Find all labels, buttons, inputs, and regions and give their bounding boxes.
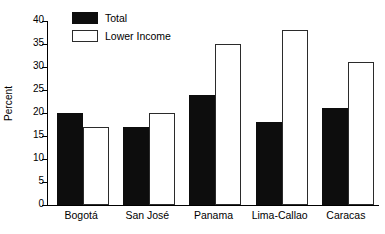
bar-group	[313, 21, 379, 205]
bar-group	[114, 21, 180, 205]
x-axis-label: Lima-Callao	[247, 209, 313, 221]
bar-total	[57, 113, 83, 205]
x-axis-label: Caracas	[313, 209, 379, 221]
x-axis-label: Panama	[180, 209, 246, 221]
bar-lower-income	[83, 127, 109, 205]
bar-chart-figure: Percent 0510152025303540 BogotáSan JoséP…	[0, 0, 385, 234]
y-tick-label: 35	[33, 37, 44, 48]
bar-group	[247, 21, 313, 205]
x-axis-label: Bogotá	[48, 209, 114, 221]
legend-item: Lower Income	[72, 28, 202, 43]
bar-lower-income	[149, 113, 175, 205]
y-axis-title-text: Percent	[4, 85, 15, 120]
filled-black-swatch	[72, 12, 98, 24]
y-tick-label: 25	[33, 83, 44, 94]
bar-lower-income	[282, 30, 308, 205]
y-tick-label: 10	[33, 152, 44, 163]
bar-total	[123, 127, 149, 205]
x-axis-label: San José	[114, 209, 180, 221]
y-tick-label: 0	[38, 198, 44, 209]
y-tick-label: 40	[33, 14, 44, 25]
bar-total	[256, 122, 282, 205]
y-axis-title: Percent	[0, 0, 18, 206]
legend-label: Lower Income	[105, 30, 171, 42]
bar-group	[48, 21, 114, 205]
y-tick-label: 20	[33, 106, 44, 117]
x-axis-labels: BogotáSan JoséPanamaLima-CallaoCaracas	[48, 209, 379, 229]
bar-group	[180, 21, 246, 205]
legend-item: Total	[72, 10, 202, 25]
y-tick-label: 30	[33, 60, 44, 71]
bar-lower-income	[215, 44, 241, 205]
bar-total	[189, 95, 215, 205]
bar-total	[322, 108, 348, 205]
chart-legend: TotalLower Income	[72, 10, 202, 46]
plot-area: 0510152025303540	[47, 21, 379, 206]
legend-label: Total	[105, 12, 127, 24]
y-tick-label: 15	[33, 129, 44, 140]
outlined-white-swatch	[72, 30, 98, 42]
bars-layer	[48, 21, 379, 206]
bar-lower-income	[348, 62, 374, 205]
y-tick-label: 5	[38, 175, 44, 186]
